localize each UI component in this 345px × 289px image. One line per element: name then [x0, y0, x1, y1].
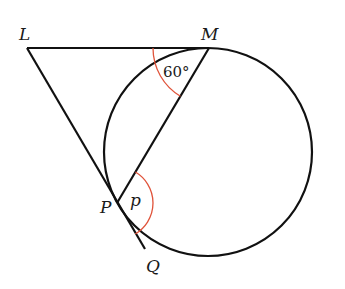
geometry-figure: L M P Q 60° p: [0, 0, 345, 289]
label-Q: Q: [146, 256, 160, 276]
label-P: P: [99, 197, 112, 217]
figure-canvas: L M P Q 60° p: [0, 0, 345, 289]
circle: [104, 48, 312, 256]
label-L: L: [18, 24, 30, 44]
segment-LQ: [27, 48, 145, 249]
label-M: M: [200, 24, 219, 44]
angle-label-P: p: [130, 190, 141, 210]
angle-label-M: 60°: [163, 63, 190, 81]
